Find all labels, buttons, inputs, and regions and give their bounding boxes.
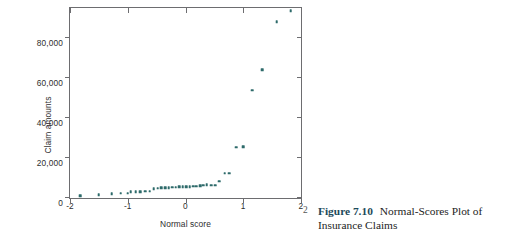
data-point: [214, 184, 217, 187]
data-point: [181, 186, 184, 189]
y-axis-title: Claim amounts: [43, 96, 53, 153]
x-tick-mark-top: [128, 8, 129, 13]
data-point: [199, 185, 202, 188]
data-point: [164, 187, 167, 190]
data-point: [129, 191, 132, 194]
data-point: [171, 186, 174, 189]
x-tick-mark-top: [243, 8, 244, 13]
data-point: [275, 21, 278, 24]
x-tick-mark-top: [301, 8, 302, 13]
y-tick-mark-right: [297, 117, 302, 118]
data-point: [289, 10, 292, 13]
y-tick-mark: [65, 117, 70, 118]
data-point: [135, 191, 138, 194]
data-point: [192, 185, 195, 188]
y-tick-mark: [65, 77, 70, 78]
page-number: 2: [303, 205, 308, 215]
data-point: [228, 172, 231, 175]
figure-container: 020,00040,00060,00080,000-2-1012 Claim a…: [0, 0, 505, 249]
y-tick-mark-right: [297, 37, 302, 38]
data-point: [160, 187, 163, 190]
data-point: [167, 186, 170, 189]
x-tick-mark-top: [70, 8, 71, 13]
data-point: [202, 184, 205, 187]
data-point: [251, 89, 254, 92]
data-point: [120, 192, 123, 195]
data-point: [195, 185, 198, 188]
figure-number: Figure 7.10: [318, 205, 373, 217]
data-point: [152, 187, 155, 190]
data-point: [178, 186, 181, 189]
y-tick-mark-right: [297, 157, 302, 158]
data-point: [98, 193, 101, 196]
x-tick-label: -1: [124, 201, 132, 211]
data-point: [206, 184, 209, 187]
x-tick-label: -2: [66, 201, 74, 211]
data-point: [79, 195, 82, 198]
data-point: [235, 146, 238, 149]
x-axis-title: Normal score: [69, 219, 302, 229]
data-point: [188, 185, 191, 188]
data-point: [139, 190, 142, 193]
data-point: [210, 184, 213, 187]
y-tick-mark: [65, 37, 70, 38]
x-tick-mark-top: [186, 8, 187, 13]
y-tick-mark-right: [297, 77, 302, 78]
x-tick-label: 0: [183, 201, 188, 211]
y-tick-mark: [65, 157, 70, 158]
data-point: [144, 190, 147, 193]
data-point: [218, 180, 221, 183]
figure-caption: Figure 7.10Normal-Scores Plot of Insuran…: [318, 205, 498, 232]
data-point: [156, 187, 159, 190]
x-tick-label: 1: [241, 201, 246, 211]
data-point: [242, 146, 245, 149]
scatter-plot-area: 020,00040,00060,00080,000-2-1012: [69, 7, 302, 199]
data-point: [223, 172, 226, 175]
data-point: [110, 193, 113, 196]
data-point: [148, 190, 151, 193]
data-point: [261, 69, 264, 72]
data-point: [185, 186, 188, 189]
data-point: [174, 186, 177, 189]
